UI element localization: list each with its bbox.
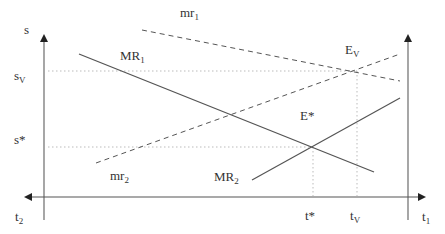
sv-label: sV [14, 68, 26, 85]
Ev-label: EV [345, 42, 360, 59]
MR2-label: MR2 [214, 169, 239, 186]
mr1-label: mr1 [180, 5, 199, 22]
MR2-curve [252, 98, 400, 180]
tstar-label: t* [305, 208, 315, 223]
s-axis-label: s [24, 22, 29, 37]
equilibrium-diagram: s t2 t1 sV s* t* tV MR1 MR2 mr1 mr2 EV E… [0, 0, 445, 234]
mr2-label: mr2 [110, 168, 129, 185]
tv-label: tV [350, 208, 361, 225]
t1-axis-label: t1 [422, 209, 430, 226]
Estar-label: E* [300, 108, 314, 123]
mr1-curve [142, 30, 400, 81]
MR1-label: MR1 [120, 48, 145, 65]
sstar-label: s* [14, 132, 26, 147]
t2-axis-label: t2 [15, 209, 23, 226]
MR1-curve [79, 54, 374, 172]
